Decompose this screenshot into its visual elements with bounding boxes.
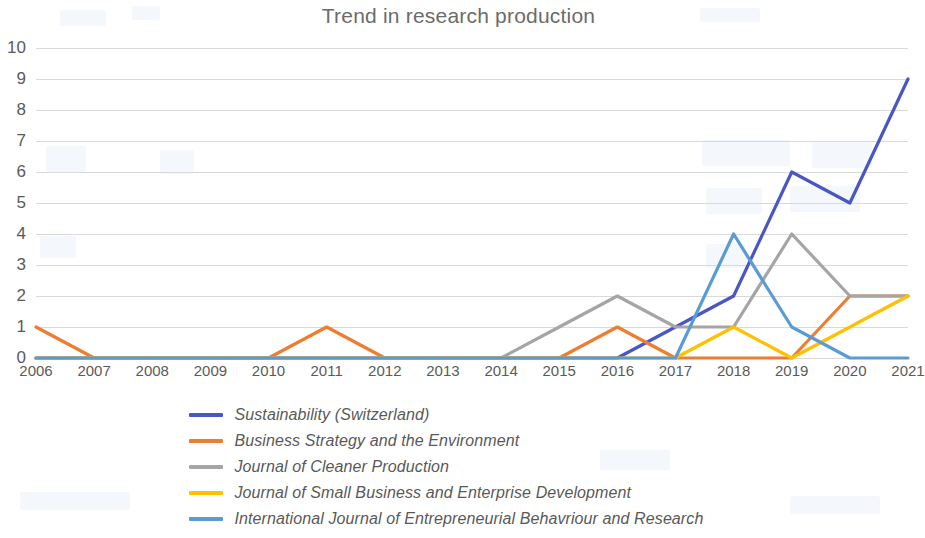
legend-item[interactable]: Business Strategy and the Environment (189, 430, 729, 452)
x-axis-tick-label: 2017 (659, 362, 692, 379)
x-axis-tick-label: 2008 (136, 362, 169, 379)
y-axis-tick-label: 10 (7, 38, 26, 58)
series-line (36, 234, 908, 358)
x-axis-tick-label: 2014 (484, 362, 517, 379)
legend-item[interactable]: International Journal of Entrepreneurial… (189, 508, 729, 530)
y-axis-tick-label: 3 (17, 255, 26, 275)
x-axis-tick-label: 2018 (717, 362, 750, 379)
series-lines (36, 48, 908, 358)
legend-item-label: Journal of Small Business and Enterprise… (235, 484, 632, 502)
legend-item[interactable]: Journal of Small Business and Enterprise… (189, 482, 729, 504)
legend-item[interactable]: Sustainability (Switzerland) (189, 404, 729, 426)
x-axis-tick-label: 2016 (601, 362, 634, 379)
y-axis-tick-label: 9 (17, 69, 26, 89)
legend-color-swatch (189, 413, 223, 417)
y-axis-tick-label: 1 (17, 317, 26, 337)
legend-color-swatch (189, 465, 223, 469)
series-line (36, 79, 908, 358)
x-axis-tick-label: 2021 (891, 362, 924, 379)
x-axis: 2006200720082009201020112012201320142015… (36, 362, 908, 386)
x-axis-tick-label: 2007 (77, 362, 110, 379)
x-axis-tick-label: 2019 (775, 362, 808, 379)
plot-area (36, 48, 908, 358)
legend-item-label: International Journal of Entrepreneurial… (235, 510, 704, 528)
chart-legend: Sustainability (Switzerland)Business Str… (0, 404, 917, 530)
x-axis-tick-label: 2012 (368, 362, 401, 379)
legend-item[interactable]: Journal of Cleaner Production (189, 456, 729, 478)
x-axis-tick-label: 2010 (252, 362, 285, 379)
x-axis-tick-label: 2011 (311, 362, 343, 379)
legend-color-swatch (189, 517, 223, 521)
y-axis-tick-label: 6 (17, 162, 26, 182)
series-line (36, 234, 908, 358)
y-axis-tick-label: 2 (17, 286, 26, 306)
x-axis-tick-label: 2009 (194, 362, 227, 379)
x-axis-tick-label: 2006 (19, 362, 52, 379)
y-axis: 012345678910 (0, 48, 30, 358)
legend-color-swatch (189, 439, 223, 443)
x-axis-tick-label: 2020 (833, 362, 866, 379)
y-axis-tick-label: 4 (17, 224, 26, 244)
y-axis-tick-label: 8 (17, 100, 26, 120)
legend-item-label: Sustainability (Switzerland) (235, 406, 430, 424)
legend-color-swatch (189, 491, 223, 495)
legend-item-label: Journal of Cleaner Production (235, 458, 450, 476)
y-axis-tick-label: 7 (17, 131, 26, 151)
x-axis-tick-label: 2013 (426, 362, 459, 379)
page-title: Trend in research production (0, 4, 917, 28)
legend-item-label: Business Strategy and the Environment (235, 432, 520, 450)
x-axis-tick-label: 2015 (543, 362, 576, 379)
y-axis-tick-label: 5 (17, 193, 26, 213)
